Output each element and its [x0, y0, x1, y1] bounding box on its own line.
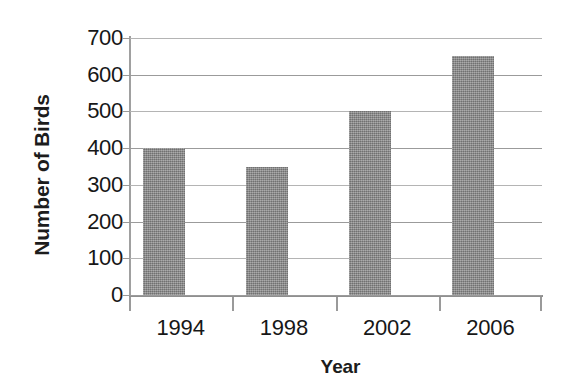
x-axis-tick-label: 1998 — [260, 316, 308, 340]
y-axis-tick-label: 700 — [55, 27, 123, 49]
y-axis-tick-label: 100 — [55, 247, 123, 269]
x-axis-tick-mark — [232, 297, 234, 311]
y-axis-tick-mark — [122, 111, 130, 112]
y-axis-title: Number of Birds — [30, 55, 54, 295]
x-axis-tick-mark — [540, 297, 542, 311]
x-axis-tick-labels: 1994199820022006 — [129, 316, 543, 350]
x-axis-tick-label: 1994 — [157, 316, 205, 340]
bar — [246, 167, 288, 296]
y-axis-tick-mark — [122, 75, 130, 76]
y-axis-tick-label: 600 — [55, 64, 123, 86]
x-axis-tick-label: 2002 — [363, 316, 411, 340]
bar — [143, 148, 185, 295]
bar-chart: Number of Birds 0100200300400500600700 1… — [0, 0, 561, 392]
y-axis-tick-mark — [122, 148, 130, 149]
x-axis-tick-marks — [129, 297, 543, 313]
plot-area — [129, 38, 542, 295]
y-axis-tick-labels: 0100200300400500600700 — [55, 38, 123, 295]
gridline — [129, 38, 542, 39]
x-axis-tick-label: 2006 — [466, 316, 514, 340]
y-axis-tick-mark — [122, 258, 130, 259]
y-axis-tick-label: 500 — [55, 100, 123, 122]
x-axis-title: Year — [0, 356, 561, 378]
y-axis-tick-label: 300 — [55, 174, 123, 196]
x-axis-title-text: Year — [321, 356, 361, 377]
gridline — [129, 295, 542, 296]
x-axis-tick-mark — [129, 297, 131, 311]
y-axis-tick-mark — [122, 295, 130, 296]
y-axis-tick-mark — [122, 38, 130, 39]
x-axis-tick-mark — [336, 297, 338, 311]
y-axis-tick-mark — [122, 185, 130, 186]
y-axis-tick-label: 200 — [55, 211, 123, 233]
y-axis-tick-label: 400 — [55, 137, 123, 159]
bar — [452, 56, 494, 295]
x-axis-tick-mark — [439, 297, 441, 311]
y-axis-tick-mark — [122, 222, 130, 223]
y-axis-tick-label: 0 — [55, 284, 123, 306]
bar — [349, 111, 391, 295]
